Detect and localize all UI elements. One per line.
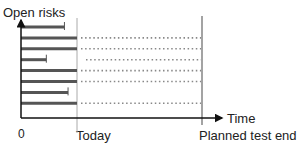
planned-test-end-label: Planned test end: [199, 128, 297, 143]
risk-timeline-diagram: Open risks Time 0 Today Planned test end: [0, 0, 306, 147]
risk-bars: [21, 22, 201, 103]
origin-label: 0: [18, 127, 25, 141]
y-axis-label: Open risks: [3, 5, 66, 20]
today-label: Today: [76, 128, 111, 143]
x-axis-label: Time: [227, 111, 255, 126]
